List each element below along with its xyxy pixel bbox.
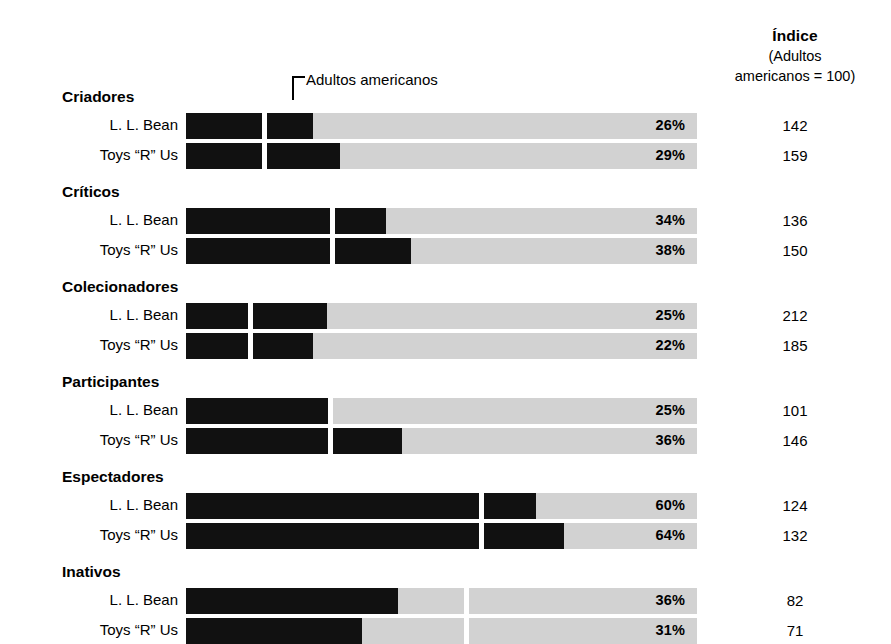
percent-label: 36% bbox=[655, 432, 685, 448]
bar-track: 25% bbox=[186, 398, 697, 424]
callout-elbow-icon bbox=[292, 76, 305, 100]
group-heading: Inativos bbox=[62, 563, 121, 581]
percent-label: 64% bbox=[655, 527, 685, 543]
row-series-label: L. L. Bean bbox=[60, 116, 178, 133]
percent-label: 22% bbox=[655, 337, 685, 353]
index-value: 101 bbox=[700, 402, 890, 419]
bar-track: 26% bbox=[186, 113, 697, 139]
index-value: 159 bbox=[700, 147, 890, 164]
index-value: 124 bbox=[700, 497, 890, 514]
reference-marker bbox=[328, 428, 333, 454]
reference-marker bbox=[479, 493, 484, 519]
index-value: 146 bbox=[700, 432, 890, 449]
index-value: 71 bbox=[700, 622, 890, 639]
bar-track: 64% bbox=[186, 523, 697, 549]
bar-track: 60% bbox=[186, 493, 697, 519]
bar-track: 34% bbox=[186, 208, 697, 234]
row-series-label: Toys “R” Us bbox=[60, 241, 178, 258]
row-series-label: L. L. Bean bbox=[60, 306, 178, 323]
percent-label: 26% bbox=[655, 117, 685, 133]
row-series-label: L. L. Bean bbox=[60, 496, 178, 513]
chart-row: L. L. Bean25%101 bbox=[0, 398, 891, 424]
reference-marker bbox=[464, 588, 469, 614]
percent-label: 25% bbox=[655, 402, 685, 418]
bar-fill bbox=[186, 208, 386, 234]
reference-marker bbox=[328, 398, 333, 424]
chart-row: Toys “R” Us38%150 bbox=[0, 238, 891, 264]
bar-fill bbox=[186, 238, 411, 264]
group-heading: Colecionadores bbox=[62, 278, 178, 296]
row-series-label: L. L. Bean bbox=[60, 591, 178, 608]
chart-row: L. L. Bean60%124 bbox=[0, 493, 891, 519]
row-series-label: Toys “R” Us bbox=[60, 146, 178, 163]
percent-label: 29% bbox=[655, 147, 685, 163]
row-series-label: L. L. Bean bbox=[60, 401, 178, 418]
bar-fill bbox=[186, 113, 313, 139]
percent-label: 31% bbox=[655, 622, 685, 638]
bar-fill bbox=[186, 428, 402, 454]
percent-label: 36% bbox=[655, 592, 685, 608]
reference-callout-label: Adultos americanos bbox=[306, 71, 438, 88]
row-series-label: Toys “R” Us bbox=[60, 526, 178, 543]
index-value: 132 bbox=[700, 527, 890, 544]
row-series-label: Toys “R” Us bbox=[60, 431, 178, 448]
reference-marker bbox=[479, 523, 484, 549]
bar-fill bbox=[186, 588, 398, 614]
index-value: 142 bbox=[700, 117, 890, 134]
bar-track: 25% bbox=[186, 303, 697, 329]
percent-label: 34% bbox=[655, 212, 685, 228]
group-heading: Participantes bbox=[62, 373, 159, 391]
reference-marker bbox=[262, 143, 267, 169]
chart-row: Toys “R” Us64%132 bbox=[0, 523, 891, 549]
group-heading: Críticos bbox=[62, 183, 120, 201]
chart-row: L. L. Bean36%82 bbox=[0, 588, 891, 614]
chart-row: Toys “R” Us31%71 bbox=[0, 618, 891, 644]
chart-row: Toys “R” Us29%159 bbox=[0, 143, 891, 169]
reference-marker bbox=[464, 618, 469, 644]
bar-fill bbox=[186, 303, 327, 329]
percent-label: 60% bbox=[655, 497, 685, 513]
chart-row: Toys “R” Us22%185 bbox=[0, 333, 891, 359]
group-heading: Espectadores bbox=[62, 468, 164, 486]
bar-track: 38% bbox=[186, 238, 697, 264]
index-column-header: Índice (Adultos americanos = 100) bbox=[700, 26, 890, 86]
bar-track: 31% bbox=[186, 618, 697, 644]
index-header-title: Índice bbox=[700, 26, 890, 46]
row-series-label: Toys “R” Us bbox=[60, 621, 178, 638]
group-heading: Criadores bbox=[62, 88, 134, 106]
bar-track: 22% bbox=[186, 333, 697, 359]
bar-fill bbox=[186, 523, 564, 549]
row-series-label: Toys “R” Us bbox=[60, 336, 178, 353]
index-value: 82 bbox=[700, 592, 890, 609]
chart-row: L. L. Bean26%142 bbox=[0, 113, 891, 139]
bar-fill bbox=[186, 618, 362, 644]
chart-row: L. L. Bean34%136 bbox=[0, 208, 891, 234]
bar-track: 29% bbox=[186, 143, 697, 169]
percent-label: 38% bbox=[655, 242, 685, 258]
bar-fill bbox=[186, 398, 330, 424]
index-value: 212 bbox=[700, 307, 890, 324]
reference-marker bbox=[248, 333, 253, 359]
reference-marker bbox=[262, 113, 267, 139]
index-header-subline-1: (Adultos bbox=[700, 46, 890, 66]
row-series-label: L. L. Bean bbox=[60, 211, 178, 228]
index-value: 185 bbox=[700, 337, 890, 354]
reference-marker bbox=[330, 208, 335, 234]
bar-track: 36% bbox=[186, 428, 697, 454]
chart-row: Toys “R” Us36%146 bbox=[0, 428, 891, 454]
chart-row: L. L. Bean25%212 bbox=[0, 303, 891, 329]
index-value: 136 bbox=[700, 212, 890, 229]
reference-marker bbox=[248, 303, 253, 329]
index-header-subline-2: americanos = 100) bbox=[700, 66, 890, 86]
bar-track: 36% bbox=[186, 588, 697, 614]
reference-marker bbox=[330, 238, 335, 264]
index-value: 150 bbox=[700, 242, 890, 259]
percent-label: 25% bbox=[655, 307, 685, 323]
